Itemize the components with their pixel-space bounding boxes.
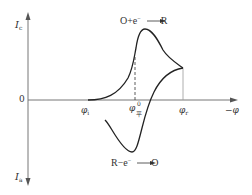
tick-phi-r: φr	[179, 106, 188, 116]
x-axis-label: −φ	[225, 106, 239, 115]
tick-phi-eq: φ0平	[129, 104, 135, 113]
anodic-left: R−e−	[111, 157, 131, 168]
phi-eq-sup: 0	[137, 101, 141, 107]
reverse-sweep-curve	[105, 68, 183, 152]
ic-sub: c	[19, 24, 22, 31]
phi-r-sub: r	[185, 109, 188, 116]
y-axis-up-arrow-icon	[26, 12, 31, 20]
y-axis-label-anodic: Ia	[15, 172, 23, 183]
x-axis-arrow-icon	[230, 98, 238, 103]
cathodic-reaction-label: O+e−R	[120, 15, 167, 26]
cyclic-voltammogram-figure: Ic Ia 0 φi φ0平 φr −φ O+e−R R−e−O	[0, 0, 252, 195]
cathodic-right: R	[161, 15, 168, 26]
tick-phi-i: φi	[81, 106, 89, 116]
phi-eq-base: φ	[129, 103, 135, 113]
forward-sweep-curve	[88, 29, 183, 100]
phi-i-sub: i	[87, 109, 89, 116]
origin-label: 0	[19, 95, 25, 104]
cathodic-left: O+e−	[120, 15, 141, 26]
ia-sub: a	[19, 176, 23, 183]
anodic-right: O	[151, 157, 158, 168]
y-axis-down-arrow-icon	[26, 178, 31, 186]
y-axis-label-cathodic: Ic	[15, 20, 22, 31]
phi-eq-sub: 平	[136, 111, 142, 117]
anodic-reaction-label: R−e−O	[111, 157, 158, 168]
